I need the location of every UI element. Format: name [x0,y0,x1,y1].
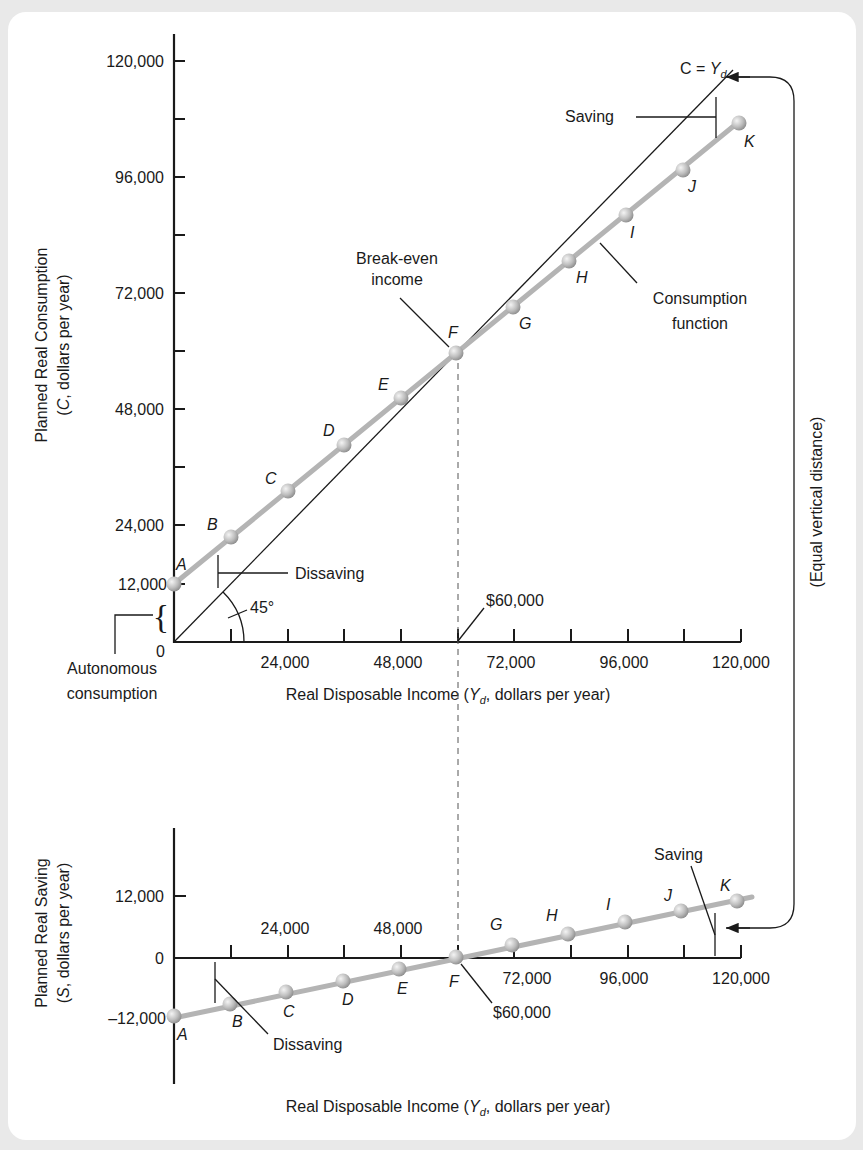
s-point-i [618,915,633,930]
bottom-xtick-120000: 120,000 [712,970,770,987]
s-label-a: A [176,1026,188,1043]
bottom-xtick-24000: 24,000 [261,920,310,937]
consumption-chart: Planned Real Consumption (C, dollars per… [33,34,770,958]
point-c [281,484,296,499]
consumption-function-label-2: function [672,315,728,332]
angle-arc [223,592,244,642]
equal-vertical-distance-connector: (Equal vertical distance) [726,77,825,928]
top-ytick-96000: 96,000 [115,169,164,186]
consumption-function-pointer [600,243,637,283]
bottom-saving-pointer [691,866,715,935]
top-60000-pointer [458,608,484,641]
top-xtick-96000: 96,000 [600,654,649,671]
point-j [676,163,691,178]
s-label-h: H [546,907,558,924]
s-label-b: B [232,1013,243,1030]
top-ytick-24000: 24,000 [115,517,164,534]
bottom-60000-pointer [461,964,492,1003]
point-f [449,346,464,361]
bottom-ylabel-line1: Planned Real Saving [33,858,50,1007]
label-h: H [576,269,588,286]
point-g [506,300,521,315]
point-h [562,254,577,269]
top-ytick-12000: 12,000 [118,576,167,593]
s-label-c: C [283,1003,295,1020]
saving-chart: Planned Real Saving (S, dollars per year… [33,828,770,1118]
s-point-b [223,997,238,1012]
bottom-ylabel-line2: (S, dollars per year) [55,863,72,1004]
label-c: C [265,470,277,487]
top-ytick-72000: 72,000 [115,285,164,302]
top-dissaving-label: Dissaving [295,565,364,582]
top-x-ticks [231,629,741,642]
label-b: B [207,516,218,533]
s-point-k [730,894,745,909]
bottom-60000-label: $60,000 [493,1004,551,1021]
top-xtick-24000: 24,000 [261,654,310,671]
bottom-xtick-72000: 72,000 [503,970,552,987]
s-label-g: G [490,916,502,933]
break-even-label-2: income [371,271,423,288]
connector-path [726,77,794,928]
label-a: A [175,556,187,573]
top-ytick-0: 0 [156,643,165,660]
label-d: D [323,422,335,439]
bottom-ytick-12000: 12,000 [115,888,164,905]
top-ylabel-line1: Planned Real Consumption [33,248,50,443]
autonomous-label-2: consumption [67,685,158,702]
s-label-f: F [449,973,460,990]
s-label-k: K [720,877,732,894]
c-equals-yd-label: C = Yd [680,60,727,80]
equal-vertical-distance-label: (Equal vertical distance) [808,417,825,588]
angle-label: 45° [250,599,274,616]
s-point-e [392,962,407,977]
point-e [394,391,409,406]
bottom-xtick-48000: 48,000 [374,920,423,937]
s-point-c [279,985,294,1000]
s-point-d [336,974,351,989]
s-point-a [167,1009,182,1024]
consumption-saving-figure: Planned Real Consumption (C, dollars per… [0,0,863,1150]
top-ylabel-line2: (C, dollars per year) [55,274,72,415]
label-i: I [630,224,635,241]
label-k: K [744,133,756,150]
label-j: J [687,178,697,195]
point-a [167,577,182,592]
top-60000-label: $60,000 [486,592,544,609]
autonomous-label-1: Autonomous [67,660,157,677]
consumption-function-label-1: Consumption [653,290,747,307]
s-point-g [505,938,520,953]
s-label-d: D [342,991,354,1008]
top-ytick-120000: 120,000 [106,53,164,70]
point-i [619,208,634,223]
s-point-f [449,950,464,965]
top-xtick-72000: 72,000 [487,654,536,671]
top-y-ticks [174,61,185,584]
bottom-ytick-neg12000: –12,000 [108,1010,166,1027]
break-even-label-1: Break-even [356,250,438,267]
s-point-h [561,927,576,942]
point-k [732,116,747,131]
point-d [337,438,352,453]
top-ytick-48000: 48,000 [115,401,164,418]
label-e: E [378,376,389,393]
s-point-j [674,904,689,919]
autonomous-brace: { [153,598,169,635]
top-xtick-48000: 48,000 [374,654,423,671]
top-xlabel: Real Disposable Income (Yd, dollars per … [286,686,611,706]
break-even-pointer [400,298,449,347]
top-xtick-120000: 120,000 [712,654,770,671]
bottom-xlabel: Real Disposable Income (Yd, dollars per … [286,1098,611,1118]
point-b [224,530,239,545]
top-saving-label: Saving [565,108,614,125]
s-label-e: E [397,980,408,997]
bottom-dissaving-label: Dissaving [273,1036,342,1053]
label-f: F [448,324,459,341]
label-g: G [519,315,531,332]
bottom-ytick-0: 0 [155,950,164,967]
autonomous-leader [115,615,153,654]
s-label-i: I [606,896,611,913]
s-label-j: J [663,887,673,904]
bottom-xtick-96000: 96,000 [600,970,649,987]
bottom-saving-label: Saving [654,846,703,863]
